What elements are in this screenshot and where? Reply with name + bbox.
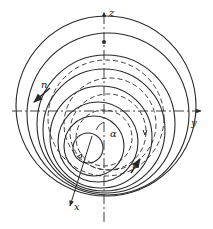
alpha-label: α	[110, 128, 117, 139]
z-axis-label: z	[108, 7, 115, 18]
solid-circle	[27, 33, 189, 195]
solid-circles	[16, 16, 196, 196]
z-axis-point	[102, 40, 106, 44]
solid-circle	[58, 102, 138, 182]
y-axis-label: y	[190, 117, 197, 128]
coordinate-circle-diagram: z y x n n α	[0, 0, 213, 229]
circle-direction-arrow-right	[143, 130, 147, 135]
alpha-angle-arc	[96, 122, 104, 130]
solid-circle	[16, 16, 196, 196]
solid-circle	[37, 55, 175, 193]
normal-arrow-upper	[34, 88, 50, 102]
normal-label-lower: n	[132, 159, 138, 170]
x-axis-label: x	[74, 201, 80, 212]
normal-label-upper: n	[41, 79, 47, 90]
